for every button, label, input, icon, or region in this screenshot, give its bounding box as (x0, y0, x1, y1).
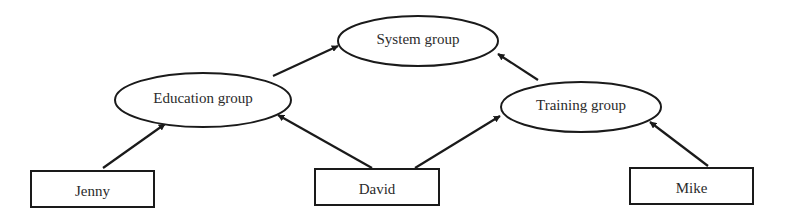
node-label: Education group (153, 90, 253, 106)
node-mike: Mike (630, 168, 753, 204)
node-david: David (315, 169, 439, 205)
node-training: Training group (501, 82, 661, 132)
edge-jenny-to-education-arrow (103, 124, 165, 168)
node-label: Training group (536, 97, 626, 113)
edge-mike-to-training-arrow (650, 122, 708, 166)
edge-education-to-system-arrow (273, 46, 338, 76)
diagram-canvas: System groupEducation groupTraining grou… (0, 0, 785, 221)
node-system: System group (338, 16, 498, 66)
edge-training-to-system-arrow (498, 54, 538, 80)
nodes: System groupEducation groupTraining grou… (31, 16, 753, 207)
edge-david-to-education-arrow (278, 115, 372, 168)
node-label: David (359, 181, 396, 197)
edge-david-to-training-arrow (415, 116, 500, 168)
node-label: Mike (676, 180, 708, 196)
node-label: Jenny (75, 183, 110, 199)
node-jenny: Jenny (31, 171, 154, 207)
node-label: System group (377, 31, 460, 47)
node-education: Education group (115, 73, 291, 127)
